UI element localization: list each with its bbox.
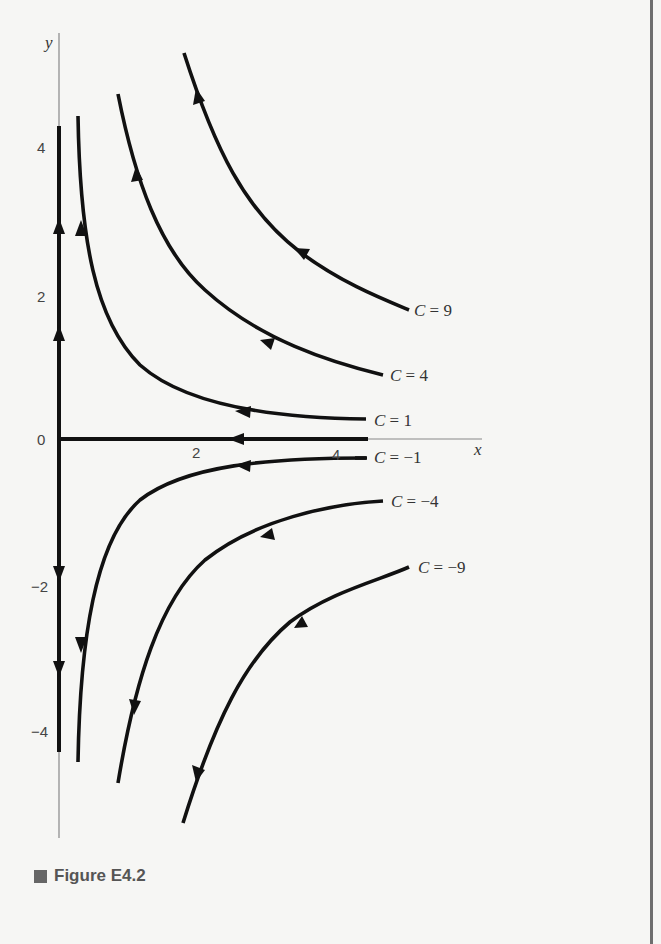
arrow-up-icon	[193, 88, 205, 105]
figure-caption: Figure E4.2	[34, 866, 146, 886]
caption-square-icon	[34, 870, 47, 883]
curve-label-c-m4: C = −4	[391, 492, 439, 511]
curve-c-m4	[118, 501, 383, 783]
arrow-down-icon	[53, 566, 65, 582]
direction-arrows	[53, 88, 310, 782]
curve-c-m9	[183, 567, 409, 823]
phase-portrait-plot: y x 2 4 4 2 0 −2 −4 C = 9 C = 4 C = 1 C …	[0, 0, 661, 944]
x-tick-4: 4	[332, 446, 340, 463]
y-tick-2: 2	[37, 288, 45, 305]
arrow-up-icon	[53, 218, 65, 234]
arrow-left-icon	[260, 528, 275, 540]
curve-label-c-9: C = 9	[414, 301, 452, 320]
y-axis-label: y	[43, 33, 53, 52]
curve-label-c-1: C = 1	[374, 411, 412, 430]
arrow-left-icon	[260, 338, 275, 350]
curve-label-c-m1: C = −1	[374, 448, 422, 467]
y-tick-m2: −2	[31, 578, 48, 595]
curve-label-c-4: C = 4	[390, 366, 428, 385]
curve-c-4	[118, 94, 383, 375]
arrow-up-icon	[131, 166, 143, 182]
y-tick-m4: −4	[31, 723, 48, 740]
arrow-up-icon	[53, 325, 65, 341]
curve-c-9	[184, 53, 409, 310]
figure-caption-text: Figure E4.2	[54, 866, 146, 886]
arrow-down-icon	[53, 661, 65, 677]
x-tick-2: 2	[192, 444, 200, 461]
x-axis-label: x	[473, 440, 482, 459]
y-tick-0: 0	[37, 431, 45, 448]
arrow-left-icon	[228, 433, 244, 445]
curve-label-c-m9: C = −9	[418, 558, 466, 577]
arrow-left-icon	[235, 460, 251, 472]
y-tick-4: 4	[37, 139, 45, 156]
